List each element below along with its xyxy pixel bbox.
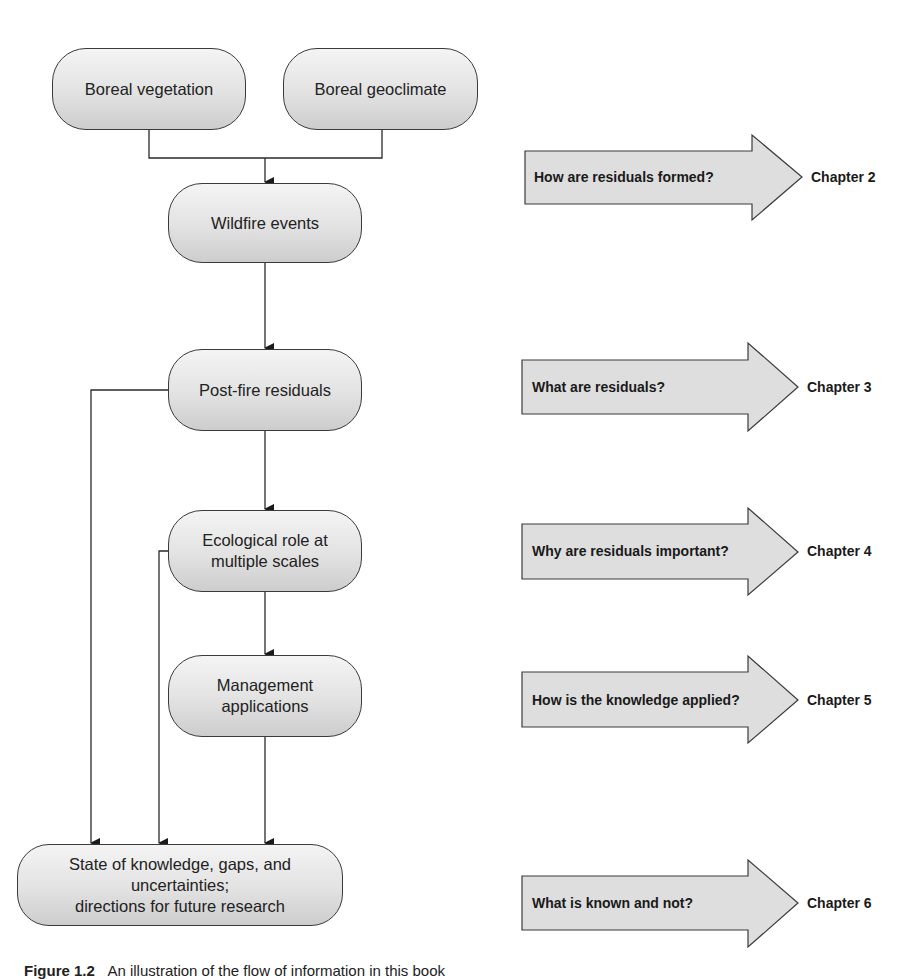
question-label-2: How are residuals formed? — [534, 169, 714, 185]
question-label-6: What is known and not? — [532, 895, 693, 911]
arrow-post-fire-to-state — [91, 390, 168, 843]
chapter-label-6: Chapter 6 — [807, 895, 872, 911]
node-label: Ecological role at multiple scales — [202, 530, 328, 572]
node-wildfire-events: Wildfire events — [168, 183, 362, 263]
chapter-label-2: Chapter 2 — [811, 169, 876, 185]
figure-caption: Figure 1.2 An illustration of the flow o… — [24, 962, 445, 979]
caption-text: An illustration of the flow of informati… — [107, 962, 445, 979]
node-label: Boreal vegetation — [85, 79, 213, 100]
node-label: Management applications — [217, 675, 313, 717]
caption-label: Figure 1.2 — [24, 962, 95, 979]
merge-connector — [149, 130, 382, 158]
node-label: Wildfire events — [211, 213, 319, 234]
chapter-label-4: Chapter 4 — [807, 543, 872, 559]
chapter-label-5: Chapter 5 — [807, 692, 872, 708]
question-label-3: What are residuals? — [532, 379, 665, 395]
node-label: Boreal geoclimate — [314, 79, 446, 100]
node-label: State of knowledge, gaps, and uncertaint… — [18, 854, 342, 917]
node-post-fire-residuals: Post-fire residuals — [168, 349, 362, 431]
question-label-4: Why are residuals important? — [532, 543, 729, 559]
node-ecological-role: Ecological role at multiple scales — [168, 510, 362, 592]
arrow-ecological-to-state — [159, 551, 168, 843]
chapter-label-3: Chapter 3 — [807, 379, 872, 395]
node-label: Post-fire residuals — [199, 380, 331, 401]
node-state-of-knowledge: State of knowledge, gaps, and uncertaint… — [17, 844, 343, 926]
question-label-5: How is the knowledge applied? — [532, 692, 740, 708]
node-boreal-geoclimate: Boreal geoclimate — [283, 48, 478, 130]
node-boreal-vegetation: Boreal vegetation — [52, 48, 246, 130]
node-management-applications: Management applications — [168, 655, 362, 737]
